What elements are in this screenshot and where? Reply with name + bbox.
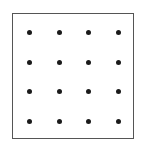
- grid-dot: [86, 30, 91, 35]
- grid-dot: [116, 30, 121, 35]
- grid-dot: [86, 89, 91, 94]
- grid-dot: [57, 89, 62, 94]
- grid-dot: [86, 60, 91, 65]
- grid-dot: [116, 119, 121, 124]
- grid-dot: [57, 30, 62, 35]
- grid-dot: [116, 89, 121, 94]
- grid-dot: [57, 60, 62, 65]
- grid-dot: [116, 60, 121, 65]
- grid-dot: [27, 89, 32, 94]
- grid-dot: [27, 30, 32, 35]
- grid-dot: [86, 119, 91, 124]
- grid-dot: [27, 60, 32, 65]
- grid-dot: [57, 119, 62, 124]
- grid-dot: [27, 119, 32, 124]
